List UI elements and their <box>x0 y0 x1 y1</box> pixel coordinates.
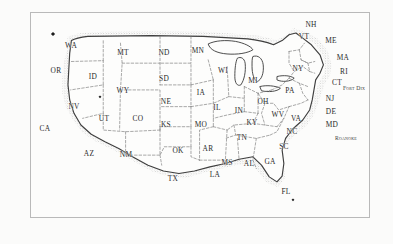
state-label-CT: CT <box>332 79 342 86</box>
state-label-NY: NY <box>292 65 303 72</box>
state-label-VA: VA <box>291 115 301 122</box>
state-label-MN: MN <box>192 47 204 54</box>
state-label-AR: AR <box>203 145 214 152</box>
annotation-fort-dix: Fort Dix <box>343 86 365 92</box>
map-frame: WA OR ID MT ND MN SD WY NV UT CO NE IA W… <box>30 12 370 218</box>
state-label-RI: RI <box>340 68 348 75</box>
national-outline <box>68 33 323 182</box>
state-label-NE: NE <box>161 98 171 105</box>
state-label-WI: WI <box>218 67 228 74</box>
state-label-IN: IN <box>235 107 243 114</box>
state-label-NM: NM <box>120 151 132 158</box>
state-label-SD: SD <box>159 75 169 82</box>
state-label-VT: VT <box>299 33 309 40</box>
state-label-OH: OH <box>257 98 268 105</box>
state-label-SC: SC <box>279 143 289 150</box>
state-label-ME: ME <box>325 37 337 44</box>
state-label-NV: NV <box>68 103 79 110</box>
state-label-OR: OR <box>51 67 62 74</box>
state-label-MA: MA <box>337 54 349 61</box>
state-label-AL: AL <box>244 160 254 167</box>
state-label-WV: WV <box>272 111 285 118</box>
state-label-IL: IL <box>213 104 220 111</box>
state-label-KY: KY <box>246 119 257 126</box>
state-label-MS: MS <box>221 159 232 166</box>
state-label-KS: KS <box>161 121 171 128</box>
state-label-NJ: NJ <box>326 95 335 102</box>
annotation-roanoke: Roanoke <box>335 136 357 142</box>
state-label-WY: WY <box>117 87 130 94</box>
state-label-MD: MD <box>326 121 338 128</box>
state-label-MT: MT <box>117 49 129 56</box>
state-label-FL: FL <box>281 188 290 195</box>
state-label-AZ: AZ <box>84 150 94 157</box>
state-label-GA: GA <box>264 158 275 165</box>
state-label-UT: UT <box>99 115 109 122</box>
state-label-IA: IA <box>197 89 205 96</box>
state-label-MO: MO <box>195 121 207 128</box>
state-label-ND: ND <box>158 49 169 56</box>
state-label-NH: NH <box>305 21 316 28</box>
state-label-OK: OK <box>172 147 183 154</box>
state-label-CO: CO <box>133 115 144 122</box>
state-label-NC: NC <box>287 128 298 135</box>
map-canvas: WA OR ID MT ND MN SD WY NV UT CO NE IA W… <box>31 13 369 217</box>
state-label-PA: PA <box>285 87 294 94</box>
state-label-TN: TN <box>237 134 247 141</box>
us-map-illustration <box>31 13 369 217</box>
state-label-MI: MI <box>248 77 258 84</box>
state-label-LA: LA <box>210 171 220 178</box>
state-label-TX: TX <box>168 175 178 182</box>
state-label-WA: WA <box>65 42 77 49</box>
state-label-ID: ID <box>89 73 97 80</box>
state-label-DE: DE <box>326 108 336 115</box>
state-label-CA: CA <box>40 125 51 132</box>
